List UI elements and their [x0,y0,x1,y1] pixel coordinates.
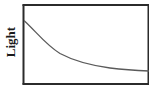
light-decay-curve [25,21,150,71]
plot-area [0,0,149,96]
chart-figure: Light [0,0,149,96]
axis-frame [23,5,150,85]
